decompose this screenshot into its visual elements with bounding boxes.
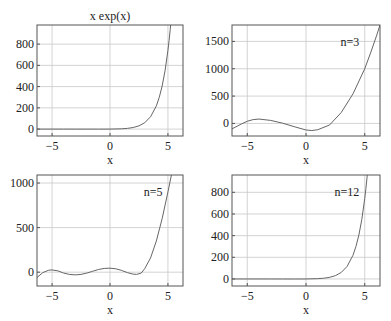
y-tick-label: 400 [211,229,229,243]
subplot-3: −50505001000xn=5 [10,175,183,317]
x-tick-label: 5 [362,139,368,153]
y-tick-label: 1000 [10,176,34,190]
x-tick-label: 5 [165,289,171,303]
subplot-2: −505050010001500xn=3 [205,25,380,167]
x-axis-label: x [303,303,309,317]
x-tick-label: −5 [46,139,59,153]
y-tick-label: 0 [28,122,34,136]
curve-x-exp-x- [37,16,171,129]
y-tick-label: 200 [211,250,229,264]
x-axis-label: x [107,303,113,317]
subplot-1: −5050200400600800xx exp(x) [16,9,183,167]
x-tick-label: −5 [46,289,59,303]
y-tick-label: 1000 [205,62,229,76]
x-tick-label: 0 [107,139,113,153]
y-tick-label: 500 [16,221,34,235]
chart-title: x exp(x) [90,9,130,23]
x-tick-label: −5 [241,289,254,303]
y-tick-label: 800 [16,37,34,51]
x-axis-label: x [107,153,113,167]
y-tick-label: 600 [16,58,34,72]
x-tick-label: 0 [303,139,309,153]
annotation-label: n=12 [334,185,359,199]
y-tick-label: 800 [211,185,229,199]
x-tick-label: 0 [107,289,113,303]
x-tick-label: 5 [165,139,171,153]
y-tick-label: 1500 [205,34,229,48]
annotation-label: n=3 [340,35,359,49]
y-tick-label: 200 [16,101,34,115]
y-tick-label: 0 [223,116,229,130]
x-tick-label: 5 [362,289,368,303]
y-tick-label: 0 [28,265,34,279]
annotation-label: n=5 [144,185,163,199]
y-tick-label: 600 [211,207,229,221]
subplot-4: −5050200400600800xn=12 [211,171,380,317]
y-tick-label: 400 [16,80,34,94]
x-axis-label: x [303,153,309,167]
x-tick-label: 0 [303,289,309,303]
y-tick-label: 0 [223,272,229,286]
figure: −5050200400600800xx exp(x)−5050500100015… [0,0,391,321]
y-tick-label: 500 [211,89,229,103]
x-tick-label: −5 [241,139,254,153]
